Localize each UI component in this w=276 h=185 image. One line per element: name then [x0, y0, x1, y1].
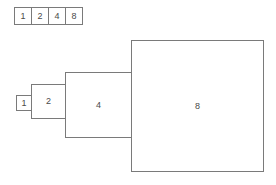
square-8-label: 8	[195, 102, 200, 111]
square-1-label: 1	[21, 99, 26, 108]
strip-cell-1: 1	[14, 7, 32, 25]
square-2-label: 2	[46, 97, 51, 106]
square-2: 2	[31, 84, 66, 119]
value-strip-table: 1 2 4 8	[14, 7, 83, 25]
square-8: 8	[131, 40, 264, 172]
strip-cell-2: 2	[31, 7, 49, 25]
square-4: 4	[65, 72, 132, 138]
figure-canvas: 1 2 4 8 1 2 4 8	[0, 0, 276, 185]
strip-cell-3: 4	[48, 7, 66, 25]
square-4-label: 4	[96, 101, 101, 110]
strip-cell-4: 8	[65, 7, 83, 25]
square-1: 1	[16, 95, 32, 111]
